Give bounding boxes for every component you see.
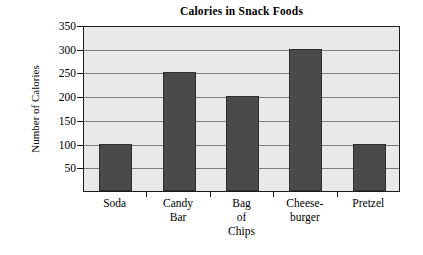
x-axis-tick-label-line: Soda	[83, 196, 146, 210]
x-axis-tick-label: BagofChips	[210, 196, 273, 238]
x-axis-tick-label: Cheese-burger	[273, 196, 336, 224]
x-axis-tick-label-line: Chips	[210, 224, 273, 238]
bar	[353, 144, 386, 191]
bar-chart-figure: Calories in Snack Foods Number of Calori…	[0, 0, 423, 255]
bar	[99, 144, 132, 191]
gridline	[84, 50, 399, 51]
y-axis-tick-label: 300	[42, 44, 76, 55]
bar	[289, 49, 322, 191]
x-axis-tick-label-line: of	[210, 210, 273, 224]
y-axis-tick-mark	[77, 97, 83, 98]
gridline	[84, 73, 399, 74]
y-axis-tick-mark	[77, 145, 83, 146]
y-axis-tick-label: 150	[42, 115, 76, 126]
x-axis-tick-labels: SodaCandyBarBagofChipsCheese-burgerPretz…	[83, 196, 400, 252]
chart-title: Calories in Snack Foods	[83, 4, 400, 18]
y-axis-tick-label: 350	[42, 21, 76, 32]
x-axis-tick-label: Pretzel	[337, 196, 400, 210]
x-axis-tick-label-line: Bag	[210, 196, 273, 210]
y-axis-tick-mark	[77, 168, 83, 169]
bar	[163, 72, 196, 191]
y-axis-tick-mark	[77, 121, 83, 122]
x-axis-tick-label-line: Pretzel	[337, 196, 400, 210]
y-axis-tick-mark	[77, 73, 83, 74]
y-axis-tick-mark	[77, 50, 83, 51]
x-axis-tick-label-line: burger	[273, 210, 336, 224]
x-axis-tick-label: Soda	[83, 196, 146, 210]
plot-area	[83, 26, 400, 192]
x-axis-tick-label-line: Bar	[146, 210, 209, 224]
x-axis-tick-label-line: Cheese-	[273, 196, 336, 210]
x-axis-tick-label: CandyBar	[146, 196, 209, 224]
y-axis-tick-label: 250	[42, 68, 76, 79]
y-axis-tick-label: 50	[42, 163, 76, 174]
y-axis-tick-mark	[77, 26, 83, 27]
x-axis-tick-label-line: Candy	[146, 196, 209, 210]
y-axis-tick-label: 200	[42, 92, 76, 103]
bar	[226, 96, 259, 191]
y-axis-tick-label: 100	[42, 139, 76, 150]
y-axis-tick-labels: 50100150200250300350	[36, 26, 76, 192]
